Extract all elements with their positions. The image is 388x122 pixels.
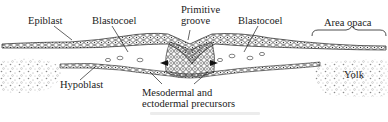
label-blastocoel-right: Blastocoel	[238, 15, 282, 26]
label-groove: groove	[181, 15, 210, 26]
yolk-left	[0, 58, 62, 92]
arrow-left-icon	[160, 60, 168, 66]
label-yolk: Yolk	[344, 69, 364, 80]
label-ectodermal-precursors: ectodermal precursors	[142, 98, 235, 109]
faint-caption-line	[150, 112, 260, 115]
label-epiblast: Epiblast	[28, 15, 62, 26]
label-primitive: Primitive	[181, 4, 220, 15]
label-hypoblast: Hypoblast	[60, 79, 103, 90]
label-mesodermal: Mesodermal and	[142, 87, 212, 98]
label-blastocoel-left: Blastocoel	[92, 15, 136, 26]
label-area-opaca: Area opaca	[324, 17, 372, 28]
primitive-streak-diagram: Epiblast Blastocoel Primitive groove Bla…	[0, 0, 388, 122]
